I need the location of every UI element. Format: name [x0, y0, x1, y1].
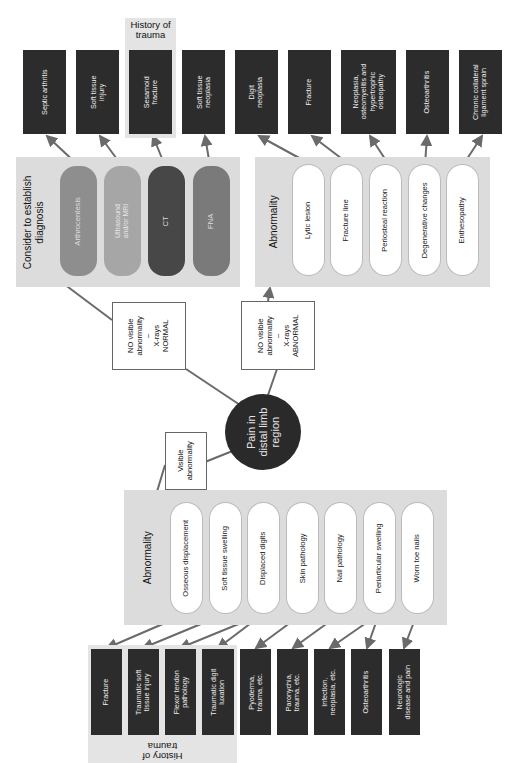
- outcome-traumatic-digit-luxation: Traumatic digitluxation: [202, 649, 234, 735]
- finding-fracture-line: Fracture line: [331, 165, 362, 275]
- outcome-traumatic-soft-tissue-injury: Traumatic softtissue injury: [128, 649, 159, 735]
- finding-soft-tissue-swelling: Soft tissue swelling: [210, 503, 241, 613]
- test-arthrocentesis: Arthrocentesis: [60, 166, 97, 276]
- diagnosis-panel-title: Consider to establishdiagnosis: [16, 160, 52, 284]
- test-fna: FNA: [193, 166, 230, 276]
- finding-enthesopathy: Enthesopathy: [447, 165, 478, 275]
- finding-osseous-displacement: Osseous displacement: [171, 503, 202, 613]
- outcome-paronychia-trauma: Paronychia,trauma, etc.: [277, 649, 308, 735]
- outcome-septic-arthritis: Septic arthritis: [23, 50, 66, 134]
- outcome-osteoarthritis-visible: Osteoarthritis: [351, 649, 382, 735]
- finding-skin-pathology: Skin pathology: [287, 503, 318, 613]
- visible-panel-title: Abnormality: [130, 495, 164, 620]
- branch-xrays-abnormal: NO visible abnormality – X-rays ABNORMAL: [241, 301, 315, 370]
- outcome-sesamoid-fracture: Sesamoidfracture: [129, 50, 172, 134]
- root-node-pain-distal-limb: Pain in distal limb region: [225, 394, 301, 470]
- xray-panel-title: Abnormality: [258, 160, 288, 284]
- history-of-trauma-label-top: History of trauma: [125, 20, 176, 41]
- branch-xrays-normal: NO visible abnormality – X-rays NORMAL: [112, 302, 186, 370]
- test-ct: CT: [148, 166, 185, 276]
- outcome-soft-tissue-injury: Soft tissueinjury: [76, 50, 119, 134]
- outcome-pyoderma-trauma: Pyoderma,trauma, etc.: [240, 649, 271, 735]
- outcome-neoplasia-osteomyelitis: Neoplasia,osteomyelitis andhypertrophico…: [341, 50, 396, 134]
- outcome-infection-neoplasia: Infection,neoplasia, etc.: [314, 649, 345, 735]
- outcome-chronic-collateral-ligament-sprain: Chronic collateralligament sprain: [459, 50, 502, 134]
- finding-worn-toe-nails: Worn toe nails: [402, 503, 433, 613]
- outcome-fracture-xray: Fracture: [288, 50, 331, 134]
- finding-periosteal-reaction: Periosteal reaction: [370, 165, 401, 275]
- branch-visible-abnormality: Visible abnormality: [165, 432, 207, 490]
- test-ultrasound-mri: Ultrasound and/or MRI: [104, 166, 141, 276]
- finding-degenerative-changes: Degenerative changes: [409, 165, 440, 275]
- finding-periarticular-swelling: Periarticular swelling: [364, 503, 395, 613]
- finding-displaced-digits: Displaced digits: [248, 503, 279, 613]
- finding-lytic-lesion: Lytic lesion: [293, 165, 324, 275]
- outcome-soft-tissue-neoplasia: Soft tissueneoplasia: [182, 50, 225, 134]
- outcome-flexor-tendon-pathology: Flexor tendonpathology: [165, 649, 196, 735]
- outcome-osteoarthritis-xray: Osteoarthritis: [406, 50, 449, 134]
- outcome-fracture-visible: Fracture: [91, 649, 122, 735]
- outcome-neurologic-disease-pain: Neurologicdisease and pain: [389, 649, 420, 735]
- finding-nail-pathology: Nail pathology: [325, 503, 356, 613]
- history-of-trauma-label-bottom: History of trauma: [88, 740, 237, 761]
- outcome-digit-neoplasia: Digitneoplasia: [235, 50, 278, 134]
